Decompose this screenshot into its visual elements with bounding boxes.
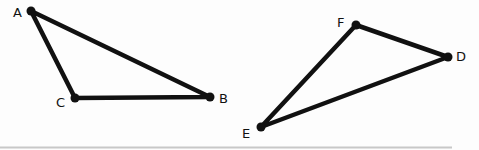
vertex-b [206,93,215,102]
vertex-d [444,53,453,62]
label-f: F [337,15,344,30]
triangles-figure: A B C D E F [0,0,479,150]
vertex-e [257,123,266,132]
vertex-c [71,94,80,103]
diagram-canvas: A B C D E F [0,0,479,150]
label-a: A [13,5,22,20]
label-e: E [242,126,250,141]
label-b: B [219,91,228,106]
label-c: C [56,95,65,110]
vertex-a [27,7,36,16]
triangle-abc: A B C [13,5,228,110]
triangle-def: D E F [242,15,466,141]
label-d: D [456,49,466,64]
vertex-f [352,21,361,30]
